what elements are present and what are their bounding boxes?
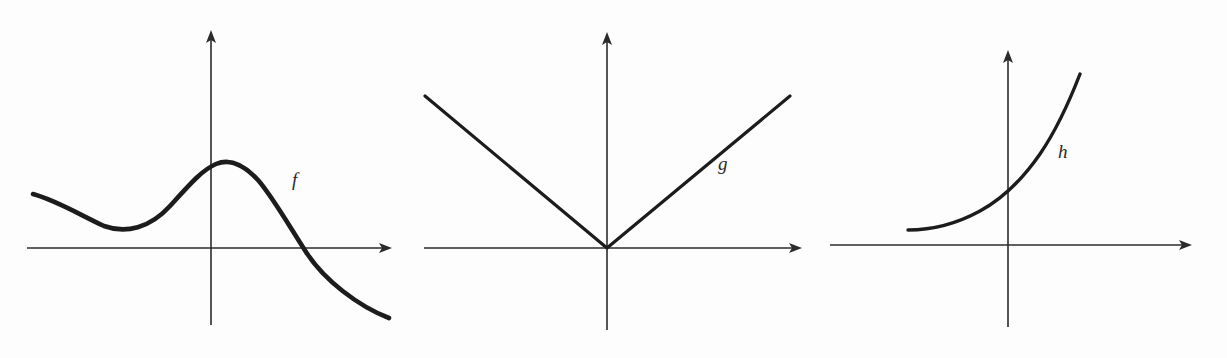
graph-svg-h: h [830, 0, 1227, 358]
figure-sheet: f g h [0, 0, 1227, 358]
curve-label-g: g [718, 153, 728, 174]
graph-svg-f: f [0, 0, 410, 358]
graph-panel-f: f [0, 0, 410, 358]
axes-group-g [424, 32, 802, 330]
curve-label-h: h [1058, 141, 1068, 162]
axes-group-f [27, 30, 392, 325]
graph-panel-g: g [410, 0, 830, 358]
graph-svg-g: g [410, 0, 830, 358]
graph-panel-h: h [830, 0, 1227, 358]
curve-h [908, 74, 1080, 230]
curve-label-f: f [292, 169, 300, 190]
